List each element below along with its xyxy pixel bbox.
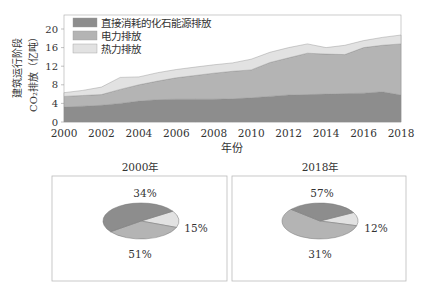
x-tick-label: 2010 bbox=[238, 127, 265, 139]
area-chart: 048121620 200020022004200620082010201220… bbox=[11, 15, 414, 155]
pie-2018-slices bbox=[282, 203, 358, 239]
pie-2000-label-electric: 34% bbox=[133, 187, 156, 199]
y-tick-label: 0 bbox=[52, 117, 58, 128]
pie-2018-label-direct: 31% bbox=[308, 248, 331, 260]
y-tick-label: 4 bbox=[52, 98, 58, 109]
x-tick-label: 2008 bbox=[200, 127, 227, 139]
legend-swatch-direct bbox=[73, 18, 97, 27]
y-axis-label-line1: 建筑运行阶段 bbox=[11, 38, 23, 98]
pie-title-2000: 2000年 bbox=[122, 161, 159, 173]
figure: 048121620 200020022004200620082010201220… bbox=[0, 0, 421, 295]
pie-2018-label-heat: 12% bbox=[364, 222, 387, 234]
pie-chart-2018: 2018年 57% 12% 31% bbox=[232, 161, 406, 281]
legend-swatch-heat bbox=[73, 44, 97, 53]
x-tick-label: 2014 bbox=[313, 127, 340, 139]
x-tick-label: 2012 bbox=[275, 127, 302, 139]
legend-swatch-electric bbox=[73, 31, 97, 40]
x-tick-label: 2000 bbox=[51, 127, 78, 139]
pie-chart-2000: 2000年 34% 15% 51% bbox=[52, 161, 227, 281]
x-tick-label: 2004 bbox=[126, 127, 153, 139]
y-tick-label: 8 bbox=[52, 79, 58, 90]
y-tick-label: 12 bbox=[45, 61, 58, 72]
y-axis-label-line2: CO₂排放（亿吨） bbox=[27, 32, 39, 112]
pie-2000-slices bbox=[103, 203, 179, 239]
x-tick-label: 2018 bbox=[388, 127, 415, 139]
legend-label-electric: 电力排放 bbox=[101, 30, 142, 42]
x-tick-label: 2006 bbox=[163, 127, 190, 139]
x-axis-ticks: 2000200220042006200820102012201420162018 bbox=[51, 127, 415, 139]
pie-title-2018: 2018年 bbox=[302, 161, 339, 173]
y-tick-label: 20 bbox=[45, 24, 58, 35]
pie-2000-label-heat: 15% bbox=[184, 222, 207, 234]
x-axis-label: 年份 bbox=[221, 141, 243, 155]
x-tick-label: 2016 bbox=[350, 127, 377, 139]
y-tick-label: 16 bbox=[45, 42, 58, 53]
y-axis-ticks: 048121620 bbox=[45, 24, 64, 128]
pie-2018-label-electric: 57% bbox=[310, 187, 333, 199]
pie-2000-label-direct: 51% bbox=[128, 248, 151, 260]
legend-label-heat: 热力排放 bbox=[101, 43, 142, 55]
x-tick-label: 2002 bbox=[88, 127, 115, 139]
legend-label-direct: 直接消耗的化石能源排放 bbox=[101, 17, 212, 29]
